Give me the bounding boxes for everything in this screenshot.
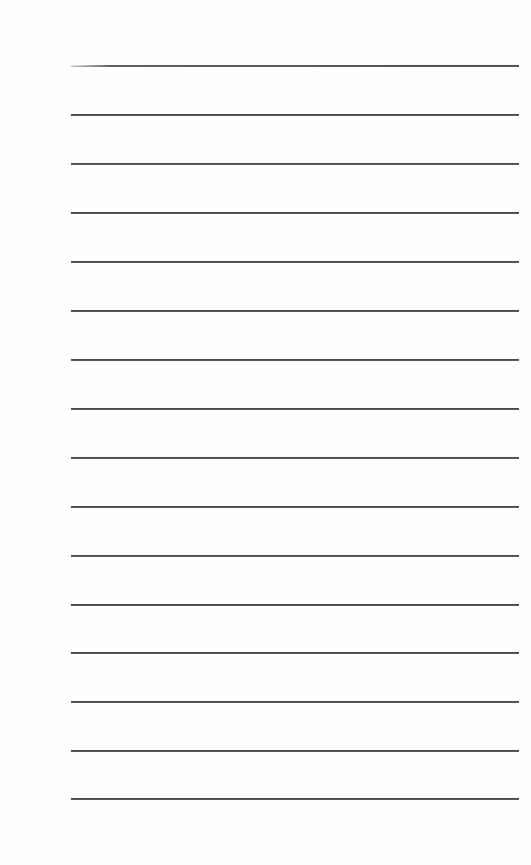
ruled-line [71,798,519,800]
ruled-line [71,359,519,361]
ruled-line [71,163,519,165]
ruled-line [71,652,519,654]
ruled-line [71,750,519,752]
ruled-line [71,212,519,214]
ruled-line [71,114,519,116]
ruled-line [71,555,519,557]
ruled-line [71,261,519,263]
lined-paper-page [0,0,531,865]
ruled-line [71,506,519,508]
ruled-line [71,310,519,312]
ruled-line [71,457,519,459]
ruled-line [71,701,519,703]
ruled-line [71,604,519,606]
ruled-line [71,65,519,67]
ruled-line [71,408,519,410]
